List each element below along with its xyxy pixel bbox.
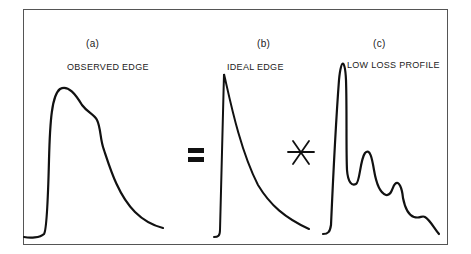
curves-canvas	[0, 0, 471, 254]
equals-icon	[188, 148, 204, 153]
convolution-icon	[288, 141, 314, 164]
ideal-edge-curve	[214, 74, 309, 237]
low-loss-profile-curve	[323, 64, 439, 235]
observed-edge-curve	[24, 88, 163, 238]
